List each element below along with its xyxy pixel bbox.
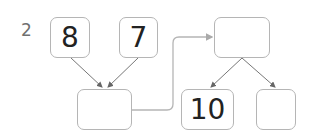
arrow-top-right-to-10 [211, 58, 242, 87]
box-8: 8 [50, 17, 90, 58]
arrow-7-to-sum [108, 58, 138, 87]
sum-answer-box[interactable] [77, 89, 132, 130]
bottom-right-answer-box[interactable] [256, 89, 296, 130]
box-7: 7 [119, 17, 158, 58]
top-right-answer-box[interactable] [214, 17, 270, 58]
arrow-8-to-sum [71, 58, 102, 87]
arrow-top-right-to-bottom-right [242, 58, 275, 87]
box-10: 10 [181, 89, 234, 130]
